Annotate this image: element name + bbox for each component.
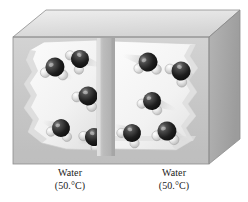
partition-divider (97, 38, 115, 156)
label-right-line2: (50.°C) (126, 180, 222, 193)
label-left-line2: (50.°C) (24, 180, 116, 193)
label-left-line1: Water (24, 167, 116, 180)
partition-highlight (97, 38, 101, 156)
partition-shadow (112, 38, 116, 156)
label-water-left: Water (50.°C) (24, 167, 116, 192)
label-right-line1: Water (126, 167, 222, 180)
figure-container: Water (50.°C) Water (50.°C) (0, 0, 248, 202)
box-top-face (13, 10, 240, 37)
label-water-right: Water (50.°C) (126, 167, 222, 192)
